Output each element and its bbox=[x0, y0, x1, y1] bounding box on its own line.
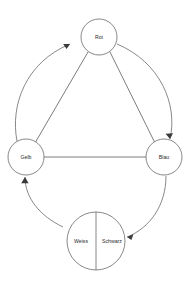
edge-rot-blau bbox=[110, 52, 155, 143]
arrowhead-into-blau bbox=[166, 133, 173, 139]
node-rot-label: Rot bbox=[95, 34, 104, 40]
node-schwarz-label: Schwarz bbox=[102, 238, 122, 244]
edge-rot-gelb bbox=[35, 52, 88, 143]
node-gelb[interactable]: Gelb bbox=[8, 139, 44, 175]
node-weiss-schwarz[interactable]: Weiss Schwarz bbox=[67, 212, 125, 270]
node-gelb-label: Gelb bbox=[21, 154, 32, 160]
arrowhead-into-gelb bbox=[21, 177, 28, 183]
edge-blau-to-schwarz bbox=[127, 176, 166, 237]
node-blau[interactable]: Blau bbox=[146, 139, 182, 175]
node-weiss-label: Weiss bbox=[74, 238, 88, 244]
node-rot[interactable]: Rot bbox=[81, 19, 117, 55]
edge-rot-to-blau bbox=[117, 44, 172, 139]
color-cycle-diagram: Rot Gelb Blau Weiss Schwarz bbox=[0, 0, 190, 300]
edge-weiss-to-gelb bbox=[25, 177, 63, 227]
diagram-canvas: Rot Gelb Blau Weiss Schwarz bbox=[0, 0, 190, 300]
node-blau-label: Blau bbox=[159, 154, 169, 160]
edge-gelb-to-rot bbox=[15, 44, 70, 141]
arrowhead-into-schwarz bbox=[127, 234, 133, 240]
